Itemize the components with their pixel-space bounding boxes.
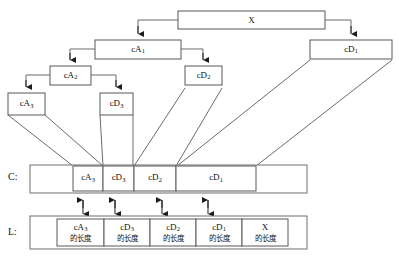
funnel-ca3 [8, 115, 103, 166]
edge-ca2-to-ca3 [26, 75, 50, 87]
edge-x-to-cd1 [325, 20, 351, 34]
l-cell-x-suffix: 的长度 [255, 233, 277, 243]
funnel-cd2 [134, 88, 222, 166]
funnel-cd3 [100, 115, 133, 166]
node-cd1: cD1 [310, 40, 392, 59]
l-row-label: L: [8, 226, 17, 237]
c-row-label: C: [8, 171, 17, 182]
edge-ca1-to-cd2 [181, 49, 203, 60]
l-cell-cd3-suffix: 的长度 [117, 233, 139, 243]
c-l-linkers [83, 200, 208, 214]
edge-x-to-ca1 [138, 20, 178, 34]
l-cell-cd2-suffix: 的长度 [163, 233, 185, 243]
node-x-label: X [248, 15, 255, 25]
c-row-cells: cA3 cD3 cD2 cD1 [73, 166, 256, 191]
node-cd2: cD2 [185, 66, 222, 85]
l-cell-ca3-suffix: 的长度 [70, 233, 92, 243]
node-ca2: cA2 [50, 66, 91, 85]
edge-ca2-to-cd3 [91, 75, 116, 87]
l-row-cells: cA3 的长度 cD3 的长度 cD2 的长度 cD1 的长度 X 的长度 [57, 219, 288, 246]
l-cell-cd1-suffix: 的长度 [209, 233, 231, 243]
node-ca1: cA1 [95, 40, 181, 59]
l-cell-x-label: X [262, 222, 269, 232]
node-cd3: cD3 [100, 93, 133, 115]
node-x: X [178, 11, 325, 29]
edge-ca1-to-ca2 [70, 49, 95, 60]
node-ca3: cA3 [8, 93, 45, 115]
wavelet-decomposition-diagram: X cA1 cD1 [0, 0, 399, 258]
diagram-canvas: X cA1 cD1 [0, 0, 399, 258]
